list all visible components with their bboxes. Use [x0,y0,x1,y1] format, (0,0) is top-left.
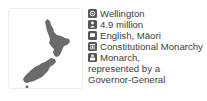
population-value: 4.9 million [100,19,143,30]
language-icon [88,31,97,40]
fact-head-of-state: Monarch, [88,52,207,63]
fact-capital: Wellington [88,8,207,19]
government-value: Constitutional Monarchy [100,41,203,52]
head-of-state-icon [88,53,97,62]
head-of-state-line-2: represented by a [88,63,165,74]
country-facts-list: Wellington 4.9 million English, Māori Co… [88,8,207,85]
capital-value: Wellington [100,8,145,19]
fact-government: Constitutional Monarchy [88,41,207,52]
population-icon [88,20,97,29]
government-icon [88,42,97,51]
languages-value: English, Māori [100,30,161,41]
fact-population: 4.9 million [88,19,207,30]
country-map-card [8,8,83,89]
head-of-state-line-3: Governor-General [88,74,165,85]
new-zealand-map [9,9,82,88]
capital-icon [88,9,97,18]
fact-languages: English, Māori [88,30,207,41]
head-of-state-value: Monarch, [100,52,140,63]
fact-head-of-state-continued: represented by a Governor-General [88,63,207,85]
